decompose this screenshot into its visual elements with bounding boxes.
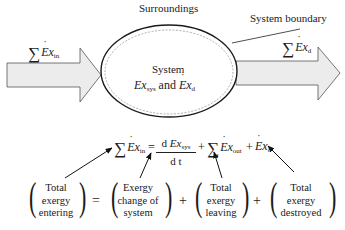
exergy-balance-diagram: Surroundings System boundary System Exsy… bbox=[0, 0, 345, 230]
system-label: System bbox=[152, 64, 184, 75]
ex-dot-symbol: Ex bbox=[255, 140, 268, 152]
system-contents-label: Exsys and Exd bbox=[134, 79, 195, 93]
word-group-entering: Totalexergyentering bbox=[36, 182, 76, 220]
ex-dot-symbol: Ex bbox=[295, 41, 308, 53]
paren-close-2: ) bbox=[165, 177, 172, 217]
ex-sys-subscript: sys bbox=[147, 85, 156, 93]
word-plus-2: + bbox=[253, 193, 261, 209]
equation-term-d: Exd bbox=[255, 140, 271, 154]
surroundings-label: Surroundings bbox=[139, 3, 198, 14]
word-plus-1: + bbox=[179, 193, 187, 209]
subscript: d bbox=[268, 146, 272, 154]
sigma-symbol: ∑ bbox=[28, 44, 40, 63]
subscript: out bbox=[233, 147, 242, 155]
word-group-leaving: Totalexergyleaving bbox=[201, 182, 241, 220]
paren-close-1: ) bbox=[79, 177, 86, 217]
equation-plus-1: + bbox=[198, 141, 205, 153]
ex-sys-symbol: Ex bbox=[134, 78, 147, 92]
paren-close-3: ) bbox=[242, 177, 249, 217]
equation-fraction: d Exsys d t bbox=[156, 137, 196, 167]
fraction-numerator: d Exsys bbox=[156, 137, 196, 153]
ex-dot-symbol: Ex bbox=[41, 46, 54, 58]
ex-dot-symbol: Ex bbox=[220, 141, 233, 153]
word-equals: = bbox=[92, 193, 100, 209]
subscript: d bbox=[308, 47, 312, 55]
subscript: in bbox=[54, 52, 59, 60]
ex-d-subscript: d bbox=[192, 85, 196, 93]
equation-term-out: ∑Exout bbox=[207, 140, 242, 157]
system-boundary-label: System boundary bbox=[250, 13, 327, 24]
subscript: in bbox=[140, 147, 145, 155]
word-group-change: Exergychange ofsystem bbox=[115, 182, 161, 220]
sigma-symbol: ∑ bbox=[282, 39, 294, 58]
paren-close-4: ) bbox=[329, 177, 336, 217]
ex-d-symbol: Ex bbox=[179, 79, 192, 91]
and-word: and bbox=[159, 78, 176, 92]
equation-plus-2: + bbox=[246, 141, 253, 153]
leader-arrow-entering bbox=[65, 148, 112, 178]
sigma-symbol: ∑ bbox=[114, 139, 126, 158]
ex-dot-symbol: Ex bbox=[127, 141, 140, 153]
leader-arrow-destroyed bbox=[268, 146, 294, 172]
equation-equals: = bbox=[148, 141, 155, 153]
fraction-denominator: d t bbox=[156, 153, 196, 167]
output-arrow-label: ∑Exd bbox=[282, 40, 311, 57]
input-arrow-label: ∑Exin bbox=[28, 45, 59, 62]
sigma-symbol: ∑ bbox=[207, 139, 219, 158]
equation-lhs: ∑Exin bbox=[114, 140, 145, 157]
word-group-destroyed: Totalexergydestroyed bbox=[276, 182, 326, 220]
